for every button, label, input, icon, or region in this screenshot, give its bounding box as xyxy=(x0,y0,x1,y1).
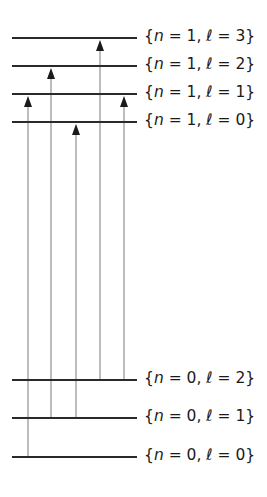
level-label-n1l2: {n = 1, ℓ = 2} xyxy=(144,57,255,73)
level-label-n1l1: {n = 1, ℓ = 1} xyxy=(144,85,255,101)
arrowhead-icon xyxy=(24,96,32,107)
level-label-n0l2: {n = 0, ℓ = 2} xyxy=(144,371,255,387)
level-label-n1l0: {n = 1, ℓ = 0} xyxy=(144,113,255,129)
level-label-n0l0: {n = 0, ℓ = 0} xyxy=(144,448,255,464)
arrowhead-icon xyxy=(120,96,128,107)
level-label-n0l1: {n = 0, ℓ = 1} xyxy=(144,409,255,425)
arrowhead-icon xyxy=(72,124,80,135)
arrowhead-icon xyxy=(96,40,104,51)
arrowhead-icon xyxy=(47,68,55,79)
level-label-n1l3: {n = 1, ℓ = 3} xyxy=(144,29,255,44)
